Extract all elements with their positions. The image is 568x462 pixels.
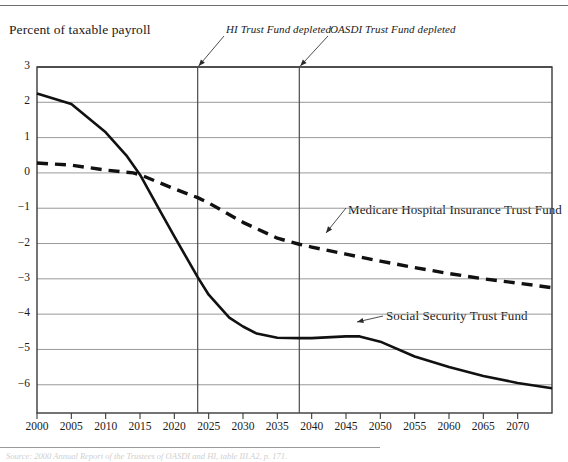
series-line-medicare [37,163,552,288]
y-tick-label-1: 1 [4,130,30,142]
y-tick-label-neg4: −4 [4,306,30,318]
y-tick-label-neg1: −1 [4,200,30,212]
y-tick-label-neg5: −5 [4,341,30,353]
plot-frame [37,67,552,413]
y-tick-label-neg3: −3 [4,271,30,283]
y-tick-label-neg2: −2 [4,236,30,248]
figure-container: Percent of taxable payroll HI Trust Fund… [0,0,568,462]
y-tick-label-0: 0 [4,165,30,177]
y-tick-label-2: 2 [4,94,30,106]
label-medicare-arrowhead [326,226,332,233]
x-tick-label-2070: 2070 [498,420,538,432]
source-note: Source: 2000 Annual Report of the Truste… [6,451,566,461]
y-tick-label-3: 3 [4,59,30,71]
label-ss-arrowhead [357,318,364,323]
y-tick-label-neg6: −6 [4,377,30,389]
bottom-divider-rule [0,447,380,448]
chart-plot-area [0,0,568,462]
